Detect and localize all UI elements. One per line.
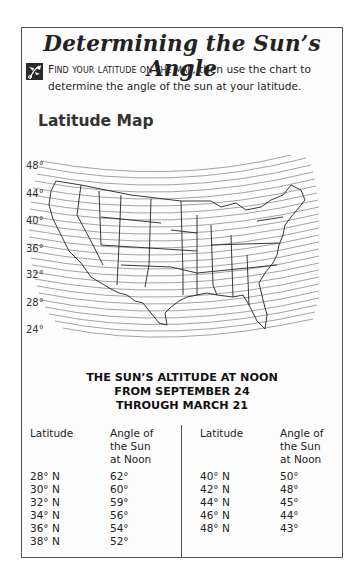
right-angle-header-l2: the Sun: [280, 440, 321, 454]
left-angle-header-l1: Angle of: [110, 427, 153, 441]
latitude-label-24: 24°: [26, 324, 44, 335]
table-row-right-0-angle: 50°: [280, 470, 299, 483]
table-row-left-2-angle: 59°: [110, 496, 129, 509]
table-title-line-3: THROUGH MARCH 21: [21, 399, 343, 413]
right-angle-header-l3: at Noon: [280, 453, 321, 467]
table-row-left-3-latitude: 34° N: [30, 509, 60, 522]
left-angle-header-l3: at Noon: [110, 453, 151, 467]
latitude-lines: [29, 155, 319, 337]
table-title-line-1: THE SUN’S ALTITUDE AT NOON: [21, 371, 343, 385]
latitude-map: [21, 155, 323, 350]
table-row-right-2-angle: 45°: [280, 496, 299, 509]
table-row-left-3-angle: 56°: [110, 509, 129, 522]
table-row-left-2-latitude: 32° N: [30, 496, 60, 509]
latitude-label-32: 32°: [26, 269, 44, 280]
instruction-line-1: Find your latitude on the map, then use …: [48, 61, 311, 78]
table-divider: [181, 425, 182, 558]
table-row-left-5-latitude: 38° N: [30, 535, 60, 548]
latitude-label-44: 44°: [26, 188, 44, 199]
latitude-label-36: 36°: [26, 243, 44, 254]
table-row-left-5-angle: 52°: [110, 535, 129, 548]
table-row-right-1-angle: 48°: [280, 483, 299, 496]
table-title-line-2: FROM SEPTEMBER 24: [21, 385, 343, 399]
table-row-left-4-angle: 54°: [110, 522, 129, 535]
table-row-right-4-latitude: 48° N: [200, 522, 230, 535]
right-angle-header-l1: Angle of: [280, 427, 323, 441]
instruction-lead: Find your latitude on the map,: [48, 63, 196, 76]
left-angle-header-l2: the Sun: [110, 440, 151, 454]
table-row-left-0-angle: 62°: [110, 470, 129, 483]
table-row-right-2-latitude: 44° N: [200, 496, 230, 509]
left-latitude-header: Latitude: [30, 427, 73, 441]
latitude-label-48: 48°: [26, 160, 44, 171]
table-row-right-4-angle: 43°: [280, 522, 299, 535]
latitude-label-28: 28°: [26, 297, 44, 308]
leaf-ornament-icon: [26, 63, 43, 80]
table-row-left-4-latitude: 36° N: [30, 522, 60, 535]
table-row-left-1-angle: 60°: [110, 483, 129, 496]
table-row-right-3-angle: 44°: [280, 509, 299, 522]
latitude-label-40: 40°: [26, 215, 44, 226]
table-row-left-0-latitude: 28° N: [30, 470, 60, 483]
right-latitude-header: Latitude: [200, 427, 243, 441]
instruction-rest: then use the chart to: [196, 63, 311, 75]
table-row-right-1-latitude: 42° N: [200, 483, 230, 496]
map-title: Latitude Map: [38, 112, 154, 130]
table-row-right-0-latitude: 40° N: [200, 470, 230, 483]
table-row-right-3-latitude: 46° N: [200, 509, 230, 522]
instruction-line-2: determine the angle of the sun at your l…: [48, 78, 301, 95]
table-row-left-1-latitude: 30° N: [30, 483, 60, 496]
